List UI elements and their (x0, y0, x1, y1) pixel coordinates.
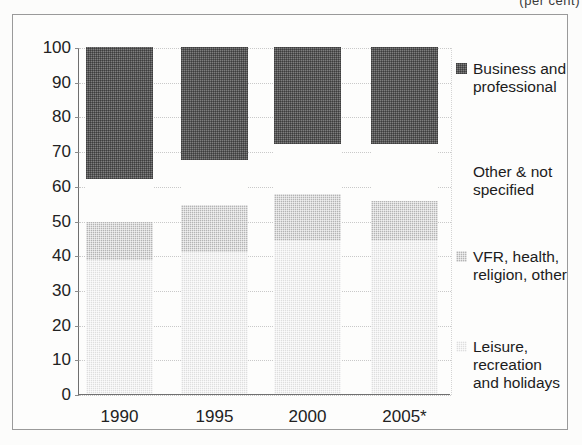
y-axis-tick-label: 90 (52, 73, 71, 93)
bar-segment-other (181, 160, 248, 205)
bar-segment-business (86, 47, 153, 179)
vfr-swatch (456, 251, 467, 262)
bar-segment-business (274, 47, 341, 144)
scanned-page: (per cent) 0102030405060708090100 199019… (0, 0, 582, 445)
legend-entry: Business and professional (456, 60, 582, 96)
other-swatch (456, 166, 467, 177)
leisure-swatch (456, 341, 467, 352)
business-swatch (456, 63, 467, 74)
y-axis-tick-label: 80 (52, 107, 71, 127)
chart-legend: Business and professionalOther & not spe… (456, 48, 581, 395)
y-axis-tick-label: 40 (52, 246, 71, 266)
gridline (79, 395, 451, 396)
y-axis-tick (75, 187, 79, 188)
y-axis-tick (75, 83, 79, 84)
legend-label: VFR, health, religion, other (473, 248, 567, 284)
y-axis-tick (75, 360, 79, 361)
bar-segment-other (274, 144, 341, 194)
bar-segment-vfr (181, 205, 248, 252)
bar-segment-business (371, 47, 438, 144)
y-axis-tick (75, 256, 79, 257)
legend-label: Business and professional (473, 60, 566, 96)
bar-segment-leisure (371, 241, 438, 394)
y-axis-tick-label: 100 (43, 38, 71, 58)
bar-segment-other (86, 179, 153, 222)
bar-segment-vfr (86, 222, 153, 260)
bar-stack (274, 47, 341, 394)
bar-segment-vfr (371, 201, 438, 241)
y-axis-tick-label: 20 (52, 316, 71, 336)
plot-area: 0102030405060708090100 1990199520002005* (78, 48, 450, 395)
bar-segment-leisure (181, 252, 248, 394)
y-axis-tick (75, 152, 79, 153)
x-axis-tick-label: 1995 (181, 407, 248, 427)
y-axis-tick (75, 291, 79, 292)
y-axis-tick-label: 60 (52, 177, 71, 197)
bar-segment-vfr (274, 194, 341, 241)
bar-segment-leisure (274, 241, 341, 394)
legend-entry: VFR, health, religion, other (456, 248, 582, 284)
bar-stack (181, 47, 248, 394)
x-axis-tick-label: 2000 (274, 407, 341, 427)
caption-text: (per cent) (519, 0, 580, 8)
bar-segment-business (181, 47, 248, 160)
y-axis-tick-label: 70 (52, 142, 71, 162)
y-axis-tick (75, 326, 79, 327)
y-axis-tick-label: 30 (52, 281, 71, 301)
bar-stack (86, 47, 153, 394)
y-axis-tick-label: 50 (52, 212, 71, 232)
legend-entry: Leisure, recreation and holidays (456, 338, 582, 392)
plot-right-edge (451, 48, 452, 395)
bar-stack (371, 47, 438, 394)
bar-segment-leisure (86, 260, 153, 394)
x-axis-tick-label: 1990 (86, 407, 153, 427)
y-axis-tick (75, 117, 79, 118)
y-axis-tick (75, 222, 79, 223)
chart-frame: 0102030405060708090100 1990199520002005*… (12, 14, 568, 430)
legend-entry: Other & not specified (456, 163, 582, 199)
legend-label: Other & not specified (473, 163, 552, 199)
x-axis-tick-label: 2005* (371, 407, 438, 427)
y-axis-tick-label: 10 (52, 350, 71, 370)
legend-label: Leisure, recreation and holidays (473, 338, 582, 392)
y-axis-tick (75, 48, 79, 49)
page-caption: (per cent) (330, 0, 580, 12)
y-axis-tick-label: 0 (62, 385, 71, 405)
y-axis-tick (75, 395, 79, 396)
bar-segment-other (371, 144, 438, 201)
